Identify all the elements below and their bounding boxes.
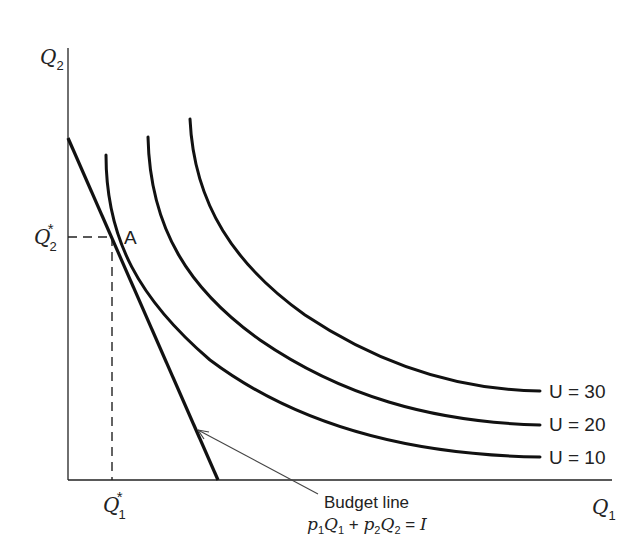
curve-label-u30: U = 30 — [549, 381, 606, 402]
indifference-curve-u20 — [148, 137, 540, 425]
x-axis-label: Q1 — [592, 495, 616, 523]
budget-line-label: Budget line — [324, 493, 409, 512]
y-axis-label: Q2 — [40, 45, 64, 73]
indifference-curve-u30 — [190, 119, 540, 391]
budget-line-pointer — [198, 430, 318, 494]
budget-equation: p1Q1 + p2Q2 = I — [307, 514, 427, 536]
q2-star-label: Q2* — [34, 220, 57, 254]
indifference-curve-u10 — [106, 155, 540, 457]
curve-label-u10: U = 10 — [549, 447, 606, 468]
q1-star-label: Q1* — [103, 488, 126, 522]
indifference-curve-diagram: Q2 Q1 Q2* Q1* A U = 30 U = 20 U = 10 Bud… — [0, 0, 643, 537]
budget-line — [68, 138, 218, 480]
optimum-point-label: A — [124, 227, 137, 248]
curve-label-u20: U = 20 — [549, 414, 606, 435]
